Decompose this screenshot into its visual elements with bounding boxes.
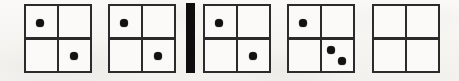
panel-1 — [24, 4, 92, 73]
panel-1-dot-bottom-right — [70, 52, 77, 59]
panel-2-dot-bottom-right — [154, 52, 161, 59]
panel-5-horizontal-divider — [372, 37, 440, 40]
panel-1-horizontal-divider — [24, 37, 92, 40]
panel-4-dot-top-left — [299, 19, 306, 26]
panel-4 — [287, 4, 355, 73]
panel-3-dot-top-left — [215, 19, 222, 26]
panel-3 — [203, 4, 271, 73]
panel-4-horizontal-divider — [287, 37, 355, 40]
panel-4-dot-bottom-right-lower — [338, 57, 345, 64]
panel-3-horizontal-divider — [203, 37, 271, 40]
dot-grid-figure — [0, 0, 459, 81]
panel-4-dot-bottom-right-upper — [327, 46, 334, 53]
panel-1-dot-top-left — [36, 19, 43, 26]
panel-2 — [108, 4, 176, 73]
panel-2-dot-top-left — [120, 19, 127, 26]
panel-3-dot-bottom-right — [249, 52, 256, 59]
separator-bar — [186, 3, 195, 73]
panel-2-horizontal-divider — [108, 37, 176, 40]
panel-5 — [372, 4, 440, 73]
